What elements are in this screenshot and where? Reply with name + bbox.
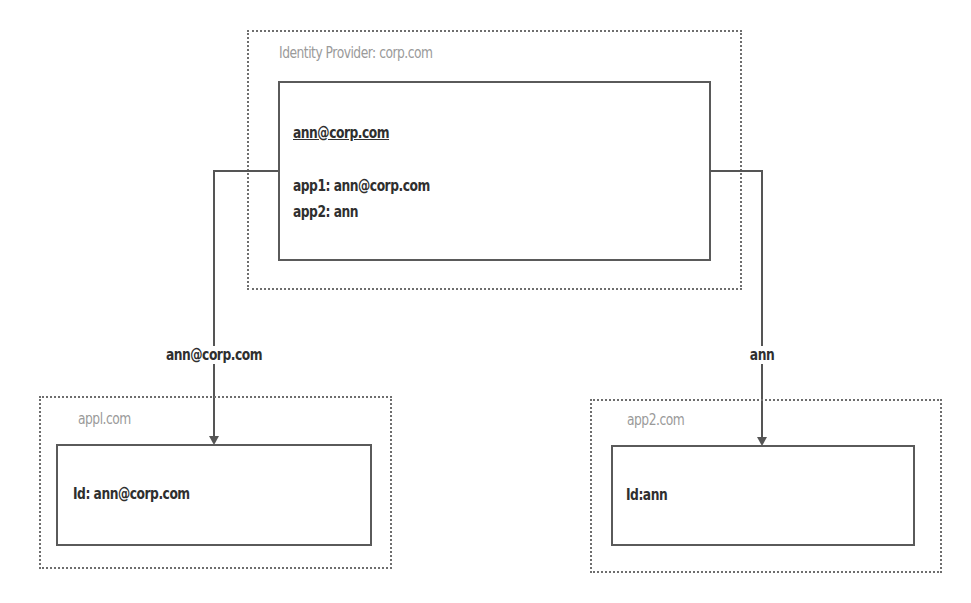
idp-mapping-app1: app1: ann@corp.com xyxy=(293,177,430,195)
connector-idp-app2-vertical xyxy=(761,170,763,437)
idp-user-account: ann@corp.com xyxy=(293,124,389,142)
identity-provider-user-box xyxy=(278,81,711,261)
connector-idp-app2-horizontal xyxy=(710,170,763,172)
edge-label-app2: ann xyxy=(748,346,776,364)
app1-account-id: Id: ann@corp.com xyxy=(73,485,190,503)
edge-label-app1: ann@corp.com xyxy=(164,346,263,364)
idp-mapping-app2: app2: ann xyxy=(293,203,358,221)
app1-title: appl.com xyxy=(78,410,131,428)
app2-title: app2.com xyxy=(627,411,684,429)
app2-account-id: Id:ann xyxy=(626,486,667,504)
identity-provider-title: Identity Provider: corp.com xyxy=(279,44,433,62)
connector-idp-app1-horizontal xyxy=(214,170,278,172)
